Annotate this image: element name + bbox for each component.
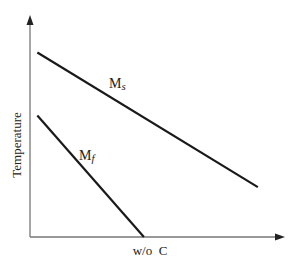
series-label-subscript: s: [121, 80, 125, 92]
series-label-mf: Mf: [79, 148, 96, 164]
x-axis-label: w/o C: [133, 243, 168, 258]
series-label-main: M: [109, 76, 122, 91]
series-line-ms: [37, 53, 258, 188]
y-axis-label: Temperature: [9, 112, 24, 178]
series-line-mf: [37, 115, 144, 237]
series-label-main: M: [79, 148, 92, 163]
axes: [27, 15, 286, 241]
y-axis-arrow-icon: [27, 15, 34, 25]
series-label-ms: Ms: [109, 76, 126, 92]
series-label-subscript: f: [91, 152, 96, 164]
chart: MsMf w/o C Temperature: [0, 0, 299, 270]
x-axis-arrow-icon: [275, 234, 285, 241]
